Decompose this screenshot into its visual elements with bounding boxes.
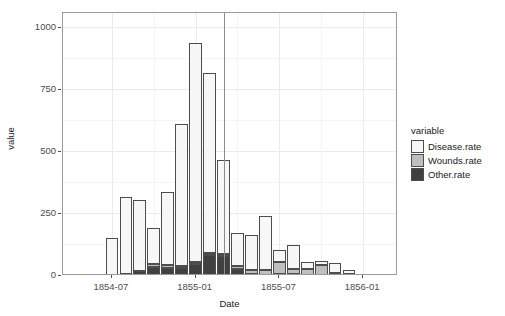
bar-segment-disease <box>357 274 370 275</box>
legend-label: Wounds.rate <box>428 156 482 166</box>
bar-stack <box>78 274 91 275</box>
y-tick-mark <box>58 213 61 214</box>
bar-segment-other <box>189 264 202 275</box>
bar-segment-wounds <box>189 262 202 264</box>
bar-segment-other <box>161 268 174 275</box>
bar-segment-wounds <box>203 253 216 255</box>
bar-segment-other <box>245 274 258 275</box>
bar-segment-other <box>231 269 244 275</box>
bar-segment-disease <box>273 250 286 262</box>
y-tick-label: 0 <box>20 270 56 280</box>
legend-swatch-disease-icon <box>411 140 424 153</box>
bar-segment-disease <box>175 124 188 267</box>
bar-segment-disease <box>315 261 328 265</box>
bar-segment-wounds <box>175 266 188 268</box>
bar-segment-wounds <box>329 273 342 275</box>
x-tick-mark <box>278 275 279 278</box>
bar-segment-other <box>147 267 160 275</box>
bar-segment-disease <box>259 216 272 271</box>
bar-segment-wounds <box>273 262 286 273</box>
bar-segment-wounds <box>301 269 314 275</box>
bar-segment-disease <box>343 270 356 274</box>
bar-stack <box>245 235 258 275</box>
legend-item-disease[interactable]: Disease.rate <box>411 139 482 153</box>
bar-segment-wounds <box>259 270 272 274</box>
bar-stack <box>161 192 174 275</box>
legend-items: Disease.rateWounds.rateOther.rate <box>411 139 482 181</box>
gridline-x <box>279 13 280 274</box>
y-tick-label: 500 <box>20 146 56 156</box>
y-tick-mark <box>58 275 61 276</box>
bar-stack <box>106 238 119 275</box>
bar-segment-disease <box>203 73 216 253</box>
x-tick-label: 1856-01 <box>327 282 397 292</box>
bar-stack <box>287 245 300 276</box>
bar-stack <box>231 233 244 275</box>
bar-segment-wounds <box>315 265 328 275</box>
bar-segment-disease <box>147 228 160 264</box>
bar-segment-wounds <box>161 265 174 268</box>
bar-stack <box>259 216 272 275</box>
gridline-y <box>63 151 396 152</box>
gridline-y-minor <box>63 120 396 121</box>
bar-segment-disease <box>120 197 133 275</box>
gridline-x <box>363 13 364 274</box>
y-tick-label: 250 <box>20 208 56 218</box>
bar-segment-disease <box>287 245 300 269</box>
x-tick-mark <box>362 275 363 278</box>
bar-segment-other <box>273 274 286 275</box>
bar-stack <box>133 200 146 275</box>
x-tick-mark <box>111 275 112 278</box>
y-tick-mark <box>58 89 61 90</box>
y-tick-label: 1000 <box>20 22 56 32</box>
gridline-y <box>63 27 396 28</box>
y-tick-mark <box>58 151 61 152</box>
legend-title: variable <box>411 126 482 136</box>
gridline-y-minor <box>63 58 396 59</box>
bar-segment-other <box>120 274 133 275</box>
legend-item-other[interactable]: Other.rate <box>411 167 482 181</box>
bar-stack <box>273 250 286 275</box>
gridline-x-minor <box>321 13 322 274</box>
chart-root: value 02505007501000 1854-071855-011855-… <box>0 0 505 316</box>
bar-segment-disease <box>106 238 119 275</box>
gridline-x <box>112 13 113 274</box>
bar-segment-disease <box>245 235 258 270</box>
bar-segment-disease <box>161 192 174 265</box>
bar-segment-disease <box>189 43 202 263</box>
bar-segment-disease <box>301 262 314 270</box>
legend-label: Disease.rate <box>428 142 481 152</box>
bar-segment-disease <box>329 263 342 273</box>
bar-segment-other <box>78 274 91 275</box>
legend-swatch-other-icon <box>411 168 424 181</box>
bar-stack <box>343 270 356 275</box>
bar-stack <box>357 274 370 275</box>
bar-stack <box>203 73 216 275</box>
bar-segment-wounds <box>147 264 160 267</box>
plot-panel <box>62 12 397 275</box>
legend-swatch-wounds-icon <box>411 154 424 167</box>
y-tick-mark <box>58 27 61 28</box>
bar-segment-disease <box>133 200 146 271</box>
x-tick-label: 1855-07 <box>243 282 313 292</box>
bar-segment-wounds <box>287 269 300 275</box>
bar-segment-other <box>203 255 216 276</box>
bar-segment-other <box>133 271 146 275</box>
bar-segment-disease <box>231 233 244 266</box>
bar-segment-other <box>287 274 300 275</box>
bar-stack <box>175 124 188 275</box>
bar-segment-other <box>175 268 188 275</box>
bar-stack <box>147 228 160 275</box>
y-axis-title: value <box>5 109 16 169</box>
x-axis-title: Date <box>62 298 397 309</box>
x-tick-mark <box>195 275 196 278</box>
bar-segment-wounds <box>343 274 356 275</box>
bar-stack <box>315 261 328 275</box>
reference-vline <box>224 13 225 274</box>
x-tick-label: 1854-07 <box>76 282 146 292</box>
bar-segment-wounds <box>245 270 258 275</box>
legend-item-wounds[interactable]: Wounds.rate <box>411 153 482 167</box>
bar-stack <box>189 43 202 276</box>
bar-stack <box>301 262 314 276</box>
legend-label: Other.rate <box>428 170 470 180</box>
